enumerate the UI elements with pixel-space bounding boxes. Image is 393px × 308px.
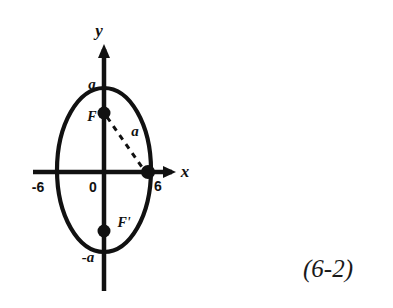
figure-page: y x a -a -6 0 6 F F' a (6-2) <box>0 0 393 308</box>
origin-label: 0 <box>89 179 97 195</box>
x-axis-label: x <box>180 162 190 181</box>
figure-caption: (6-2) <box>303 255 353 283</box>
bottom-vertex-label: -a <box>82 249 95 265</box>
x-tick-right-label: 6 <box>154 178 162 194</box>
vertex-right-dot <box>141 165 155 179</box>
y-axis-label: y <box>93 21 103 40</box>
focus-upper-label: F <box>86 109 97 124</box>
focus-lower-dot <box>98 225 111 238</box>
focus-lower-label: F' <box>116 215 130 230</box>
focus-upper-dot <box>98 107 111 120</box>
x-axis-arrowhead <box>163 166 176 178</box>
segment-length-label: a <box>131 123 139 139</box>
x-tick-left-label: -6 <box>32 179 45 195</box>
y-axis-arrowhead <box>98 44 110 58</box>
top-vertex-label: a <box>88 76 96 92</box>
